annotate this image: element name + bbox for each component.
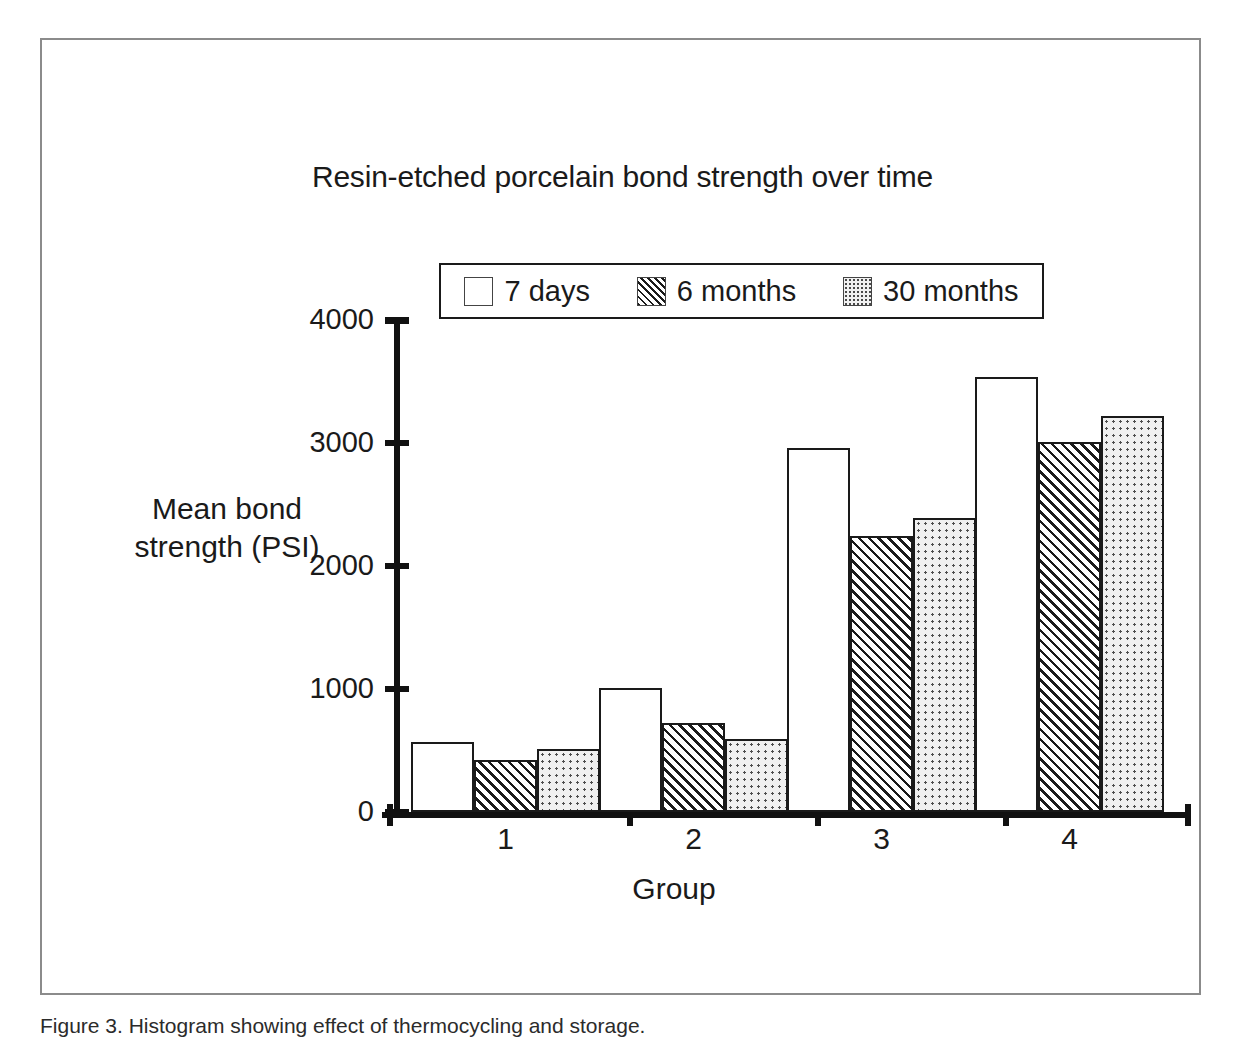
y-axis-tick-label: 0 (282, 797, 374, 826)
bar-group-1-series-2 (474, 760, 537, 812)
bar-group-2-series-1 (599, 688, 662, 812)
figure-frame: Resin-etched porcelain bond strength ove… (40, 38, 1201, 995)
bar-group-2-series-3 (725, 739, 788, 812)
x-axis-tick (1185, 804, 1191, 826)
y-axis-title: Mean bond strength (PSI) (97, 490, 357, 567)
y-axis-tick (385, 317, 409, 324)
bar-group-1-series-3 (537, 749, 600, 812)
bar-group-1-series-1 (411, 742, 474, 812)
bar-group-3-series-1 (787, 448, 850, 812)
x-axis-tick-label: 3 (842, 824, 922, 854)
y-axis-title-line-2: strength (PSI) (97, 528, 357, 566)
x-axis-tick (387, 804, 393, 826)
x-axis-line (382, 812, 1188, 818)
bar-group-4-series-2 (1038, 442, 1101, 812)
bar-group-3-series-3 (913, 518, 976, 812)
x-axis-tick-label: 2 (654, 824, 734, 854)
y-axis-tick-label: 4000 (282, 305, 374, 334)
bar-group-4-series-3 (1101, 416, 1164, 812)
x-axis-tick-label: 4 (1030, 824, 1110, 854)
bar-group-3-series-2 (850, 536, 913, 812)
y-axis-tick-label: 3000 (282, 428, 374, 457)
y-axis-tick (385, 440, 409, 446)
y-axis-tick (385, 563, 409, 569)
x-axis-tick-label: 1 (466, 824, 546, 854)
bar-group-2-series-2 (662, 723, 725, 812)
figure-caption: Figure 3. Histogram showing effect of th… (40, 1014, 1140, 1038)
bar-group-4-series-1 (975, 377, 1038, 812)
y-axis-title-line-1: Mean bond (97, 490, 357, 528)
plot-area: 01000200030004000 1234 Mean bond strengt… (42, 40, 1203, 997)
y-axis-tick (385, 686, 409, 692)
y-axis-tick-label: 1000 (282, 674, 374, 703)
x-axis-title: Group (632, 872, 715, 906)
